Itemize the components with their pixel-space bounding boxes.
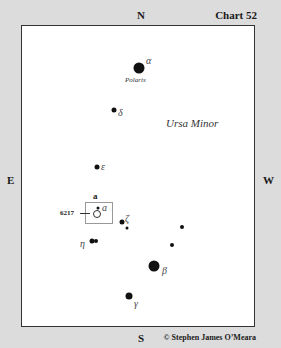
star-beta bbox=[149, 261, 160, 272]
copyright: © Stephen James O’Meara bbox=[164, 333, 256, 342]
star-unnamed-2 bbox=[170, 243, 174, 247]
polaris-label: Polaris bbox=[125, 76, 146, 84]
star-eta-label: η bbox=[80, 238, 85, 249]
west-label: W bbox=[263, 174, 274, 186]
star-alpha bbox=[134, 63, 145, 74]
star-zeta-companion bbox=[126, 227, 129, 230]
ngc-pointer bbox=[80, 213, 90, 214]
star-gamma-label: γ bbox=[134, 298, 138, 309]
star-delta-label: δ bbox=[118, 107, 123, 118]
galaxy-6217-icon bbox=[93, 210, 101, 218]
south-label: S bbox=[138, 332, 144, 344]
star-eta-companion bbox=[94, 239, 98, 243]
field-label: a bbox=[93, 191, 98, 201]
chart-number: Chart 52 bbox=[215, 9, 257, 21]
star-epsilon bbox=[95, 165, 100, 170]
north-label: N bbox=[137, 9, 145, 21]
star-gamma bbox=[126, 293, 133, 300]
star-epsilon-label: ε bbox=[101, 161, 105, 172]
star-zeta bbox=[120, 220, 125, 225]
star-unnamed-1 bbox=[180, 225, 184, 229]
star-zeta-label: ζ bbox=[125, 213, 129, 224]
east-label: E bbox=[7, 174, 14, 186]
star-a-label: a bbox=[102, 202, 107, 213]
constellation-label: Ursa Minor bbox=[166, 117, 218, 129]
ngc-6217-label: 6217 bbox=[60, 209, 74, 217]
star-alpha-label: α bbox=[146, 55, 151, 66]
star-a bbox=[97, 207, 100, 210]
star-delta bbox=[112, 108, 117, 113]
star-beta-label: β bbox=[162, 265, 167, 276]
